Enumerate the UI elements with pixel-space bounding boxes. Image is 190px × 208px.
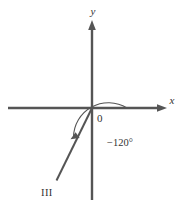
x-axis-label: x — [169, 94, 175, 106]
angle-diagram: x y 0 −120° III — [0, 0, 190, 208]
origin-label: 0 — [97, 112, 103, 124]
y-axis-label: y — [90, 5, 96, 17]
terminal-ray-line — [57, 108, 93, 181]
terminal-ray — [57, 108, 93, 181]
coordinate-plane-figure: x y 0 −120° III — [0, 0, 190, 208]
y-axis-arrowhead-icon — [88, 20, 96, 30]
x-axis-arrowhead-icon — [157, 104, 167, 112]
quadrant-label: III — [41, 187, 53, 198]
angle-measure-label: −120° — [107, 137, 133, 148]
x-axis — [8, 104, 167, 112]
